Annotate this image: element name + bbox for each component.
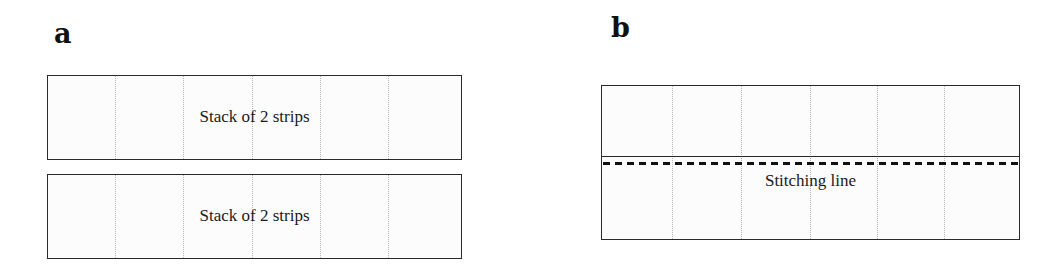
seam-edge [602, 156, 1019, 157]
stitching-line-label: Stitching line [602, 171, 1019, 191]
strip-stack-top: Stack of 2 strips [47, 75, 462, 160]
strip-label: Stack of 2 strips [48, 107, 461, 127]
strip-stack-bottom: Stack of 2 strips [47, 174, 462, 259]
strip-label: Stack of 2 strips [48, 206, 461, 226]
stitching-line [603, 162, 1021, 165]
panel-label-a: a [54, 20, 72, 47]
panel-label-b: b [611, 14, 630, 41]
sewn-strips: Stitching line [601, 85, 1020, 240]
